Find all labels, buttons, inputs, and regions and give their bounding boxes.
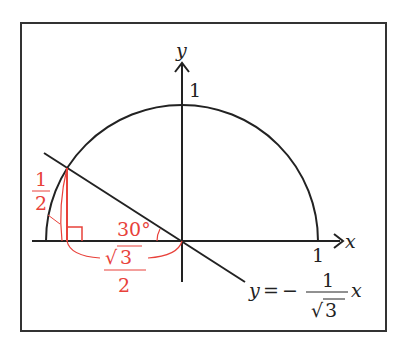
svg-text:√: √ (105, 246, 118, 268)
angle-label: 30° (117, 218, 151, 240)
y-axis-label: y (175, 39, 187, 61)
svg-text:3: 3 (325, 299, 337, 321)
label-one-half: 1 2 (32, 168, 50, 214)
diagram-canvas: y 1 x 1 1 2 30° √ 3 2 y = − 1 √ 3 x (0, 0, 404, 346)
svg-text:y: y (248, 279, 260, 301)
line-equation-label: y = − 1 √ 3 x (248, 269, 362, 321)
svg-text:1: 1 (322, 269, 334, 291)
svg-text:x: x (351, 279, 362, 301)
angle-arc (157, 229, 160, 241)
horizontal-brace-right (148, 241, 182, 258)
svg-text:2: 2 (118, 274, 130, 296)
svg-text:√: √ (311, 299, 324, 321)
label-root3-over-2: √ 3 2 (104, 246, 146, 296)
svg-text:2: 2 (35, 192, 47, 214)
svg-text:−: − (282, 279, 298, 301)
x-axis-label: x (345, 230, 356, 252)
right-angle-mark (67, 227, 82, 241)
svg-text:3: 3 (120, 246, 132, 268)
y-tick-label: 1 (189, 79, 201, 101)
x-tick-label: 1 (312, 244, 324, 266)
svg-text:1: 1 (35, 168, 47, 190)
horizontal-brace-left (67, 241, 100, 258)
right-triangle (48, 168, 182, 258)
svg-text:=: = (263, 279, 279, 301)
